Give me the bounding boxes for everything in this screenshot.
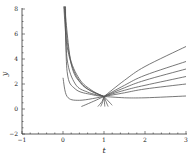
solution-curve [65, 7, 104, 97]
solution-curve [104, 84, 186, 97]
chart-canvas: −202468 −10123 y t [0, 0, 191, 161]
solution-curve [66, 7, 105, 97]
x-tick-label: 1 [102, 136, 106, 143]
plot-curves [63, 7, 186, 107]
y-tick-label: 8 [14, 5, 18, 12]
y-tick-label: 6 [14, 30, 18, 37]
x-tick-label: 2 [143, 136, 147, 143]
y-tick-label: 0 [14, 105, 18, 112]
x-tick-label: −1 [18, 136, 27, 143]
solution-curve [104, 96, 186, 98]
solution-curve [81, 97, 104, 107]
solution-curve [65, 7, 104, 97]
y-tick-label: 4 [14, 55, 18, 62]
x-axis: −10123 [18, 131, 189, 143]
y-axis: −202468 [9, 5, 25, 137]
y-axis-label: y [0, 71, 9, 77]
x-tick-label: 0 [61, 136, 65, 143]
x-axis-label: t [102, 146, 106, 155]
y-tick-label: 2 [14, 80, 18, 87]
x-tick-label: 3 [184, 136, 188, 143]
solution-curve [104, 97, 112, 106]
